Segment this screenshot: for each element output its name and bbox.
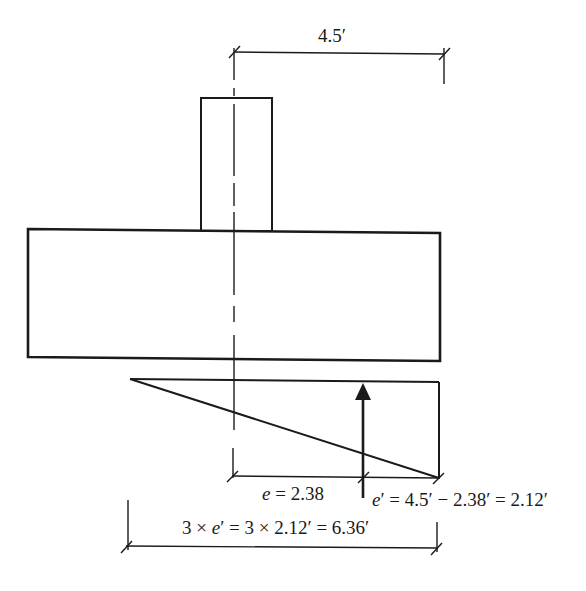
column-centerline [233,48,234,478]
column [201,98,272,231]
footing-diagram: 4.5′ e = 2.38 e′ = 4.5′ − 2.38′ = 2.12′ … [0,0,586,591]
dimension-e-label: e = 2.38 [262,483,324,504]
tick-mark-icon [121,541,132,553]
dimension-pressure-length-label: 3 × e′ = 3 × 2.12′ = 6.36′ [182,517,369,538]
dimension-e-prime-label: e′ = 4.5′ − 2.38′ = 2.12′ [372,489,548,510]
arrow-head-icon [355,383,371,400]
dimension-top: 4.5′ [229,25,450,84]
dimension-top-label: 4.5′ [318,25,346,46]
resultant-arrow [355,383,371,498]
dimension-e: e = 2.38 e′ = 4.5′ − 2.38′ = 2.12′ [227,471,548,510]
pressure-diagram [130,379,439,478]
